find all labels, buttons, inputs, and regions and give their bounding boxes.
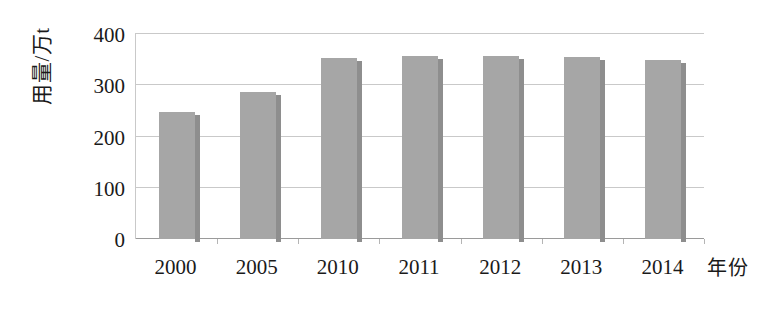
y-axis-title: 用量/万t [27, 6, 57, 126]
x-tick-label-2005: 2005 [212, 255, 302, 279]
x-tick-label-2000: 2000 [131, 255, 221, 279]
x-tickmark-end [704, 239, 705, 244]
bar-2012 [483, 33, 519, 239]
x-tickmark-1 [217, 239, 218, 244]
x-tickmark-6 [623, 239, 624, 244]
plot-area [135, 33, 703, 239]
bar-fill-2011 [402, 56, 438, 239]
x-tick-label-2011: 2011 [374, 255, 464, 279]
bar-shadow-2010 [357, 61, 362, 242]
y-tick-label-200: 200 [55, 128, 125, 149]
bar-shadow-2014 [681, 63, 686, 242]
y-tick-label-0: 0 [55, 230, 125, 251]
x-tick-label-2014: 2014 [617, 255, 707, 279]
x-axis-title: 年份 [707, 256, 749, 280]
bar-shadow-2012 [519, 59, 524, 242]
bar-chart-figure: 用量/万t 400 300 200 100 0 2000200520102011… [0, 0, 777, 313]
bar-shadow-2005 [276, 95, 281, 242]
bar-fill-2013 [564, 57, 600, 239]
bar-shadow-2000 [195, 115, 200, 242]
x-tick-label-2012: 2012 [455, 255, 545, 279]
bar-2005 [240, 33, 276, 239]
bar-shadow-2011 [438, 59, 443, 242]
y-tick-label-400: 400 [55, 25, 125, 46]
x-axis-tick-labels: 2000200520102011201220132014 [135, 255, 703, 285]
bar-fill-2010 [321, 58, 357, 239]
y-tick-label-100: 100 [55, 179, 125, 200]
bar-2010 [321, 33, 357, 239]
bars-layer [136, 33, 704, 239]
y-axis-tick-labels: 400 300 200 100 0 [55, 0, 125, 313]
x-tickmark-5 [542, 239, 543, 244]
y-tick-label-300: 300 [55, 76, 125, 97]
x-tickmark-3 [379, 239, 380, 244]
bar-2013 [564, 33, 600, 239]
bar-shadow-2013 [600, 60, 605, 242]
bar-2000 [159, 33, 195, 239]
bar-fill-2000 [159, 112, 195, 239]
x-tick-label-2010: 2010 [293, 255, 383, 279]
bar-fill-2014 [645, 60, 681, 239]
x-tick-label-2013: 2013 [536, 255, 626, 279]
x-tickmark-4 [461, 239, 462, 244]
bar-fill-2005 [240, 92, 276, 239]
bar-fill-2012 [483, 56, 519, 239]
x-tickmark-2 [298, 239, 299, 244]
bar-2014 [645, 33, 681, 239]
bar-2011 [402, 33, 438, 239]
